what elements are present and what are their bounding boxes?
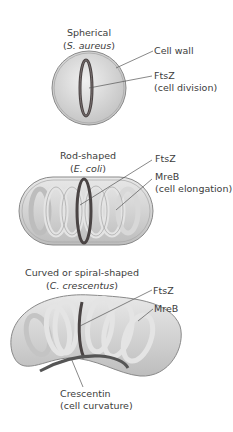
label-cell-wall: Cell wall <box>154 45 194 56</box>
label-mreb: MreB <box>155 171 179 182</box>
spherical-species: (S. aureus) <box>50 40 128 51</box>
rod-species: (E. coli) <box>52 163 124 174</box>
label-crescentin: Crescentin <box>60 388 111 399</box>
curved-species: (C. crescentus) <box>30 280 134 291</box>
label-ftsz-desc: (cell division) <box>154 82 217 93</box>
spherical-title: Spherical <box>58 27 120 38</box>
curved-title: Curved or spiral-shaped <box>20 267 144 278</box>
label-mreb: MreB <box>154 303 178 314</box>
rod-title: Rod-shaped <box>52 150 124 161</box>
leader-crescentin <box>71 358 83 387</box>
label-ftsz: FtsZ <box>153 285 174 296</box>
label-crescentin-desc: (cell curvature) <box>60 400 133 411</box>
label-ftsz: FtsZ <box>155 153 176 164</box>
label-mreb-desc: (cell elongation) <box>155 183 232 194</box>
label-ftsz: FtsZ <box>154 70 175 81</box>
diagram-canvas <box>0 0 233 432</box>
spherical-cell <box>52 51 153 125</box>
leader-cell-wall <box>116 51 153 68</box>
